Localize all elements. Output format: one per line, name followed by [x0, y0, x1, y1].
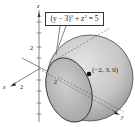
center-point-label: (−2, 3, 0)	[92, 66, 119, 74]
z-tick-label: 2	[30, 44, 33, 51]
y-tick-label: 2	[54, 79, 57, 85]
y-axis-label: y	[120, 114, 124, 120]
equation-lhs: (y − 3)	[51, 14, 71, 23]
z-axis-label: z	[36, 3, 40, 9]
x-axis-label: x	[2, 84, 6, 90]
equation-z-term: + z	[73, 14, 84, 23]
equation-rhs: = 5	[87, 14, 99, 23]
equation-callout: (y − 3)2 + z2 = 5	[45, 12, 104, 26]
x-tick-label: 2	[20, 83, 23, 90]
center-point	[87, 72, 92, 77]
